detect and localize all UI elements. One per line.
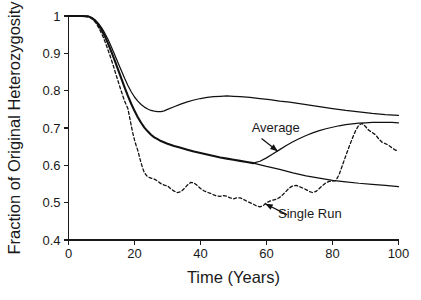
axis-lines-group [69,16,399,240]
y-tick-label: 0.7 [42,121,60,136]
y-tick-label: 0.4 [42,233,60,248]
y-axis-title: Fraction of Original Heterozygosity [5,1,23,255]
single-run-annotation-label: Single Run [278,206,342,221]
y-tick-label: 0.9 [42,46,60,61]
annotations-group: AverageSingle Run [252,120,342,221]
average-annotation-label: Average [252,120,300,135]
y-tick-label: 1 [53,9,60,24]
figure-container: 0.40.50.60.70.80.91020406080100 AverageS… [0,0,421,300]
x-tick-label: 100 [388,246,410,261]
y-tick-label: 0.8 [42,83,60,98]
x-axis-title: Time (Years) [187,268,280,286]
x-tick-label: 60 [259,246,273,261]
y-tick-label: 0.6 [42,158,60,173]
series-group [69,16,399,207]
x-tick-label: 0 [65,246,72,261]
x-tick-label: 80 [325,246,339,261]
heterozygosity-line-chart: 0.40.50.60.70.80.91020406080100 AverageS… [0,0,421,300]
axis-ticks-group: 0.40.50.60.70.80.91020406080100 [42,9,409,262]
x-tick-label: 20 [127,246,141,261]
y-tick-label: 0.5 [42,195,60,210]
series-upper-average [69,16,399,115]
series-main-decline [69,16,254,163]
single-run-annotation-arrowhead [265,204,273,210]
x-tick-label: 40 [193,246,207,261]
